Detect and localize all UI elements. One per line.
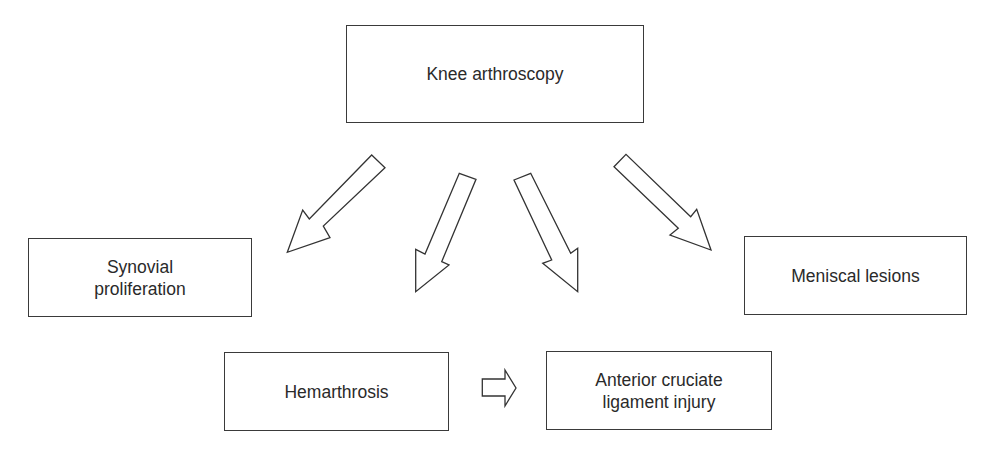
arrow-to-meniscal-lesions-icon [614, 154, 711, 250]
arrow-hemarthrosis-to-acl-icon [482, 370, 516, 406]
node-label: Hemarthrosis [284, 381, 388, 403]
node-synovial-proliferation: Synovial proliferation [28, 238, 252, 317]
node-label: Meniscal lesions [791, 265, 919, 287]
node-knee-arthroscopy: Knee arthroscopy [346, 25, 644, 123]
node-meniscal-lesions: Meniscal lesions [744, 236, 967, 315]
node-label: Synovial proliferation [94, 256, 185, 300]
arrow-to-acl-injury-icon [514, 173, 578, 291]
node-label: Anterior cruciate ligament injury [595, 369, 722, 413]
arrow-to-synovial-proliferation-icon [287, 155, 385, 252]
arrow-to-hemarthrosis-icon [416, 173, 476, 291]
node-acl-injury: Anterior cruciate ligament injury [546, 351, 772, 430]
diagram-canvas: Knee arthroscopy Synovial proliferation … [0, 0, 996, 453]
node-label: Knee arthroscopy [426, 63, 563, 85]
node-hemarthrosis: Hemarthrosis [224, 352, 449, 431]
